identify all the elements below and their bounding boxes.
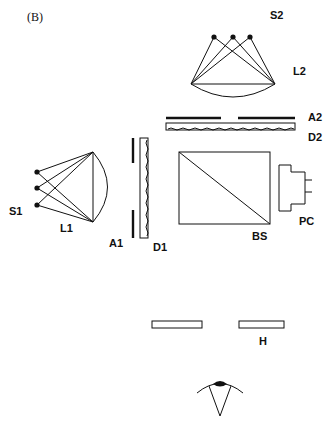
hologram-h — [152, 321, 284, 328]
label-a1: A1 — [109, 237, 123, 249]
label-d1: D1 — [153, 241, 167, 253]
diffuser-d2 — [166, 123, 295, 130]
label-a2: A2 — [308, 111, 322, 123]
label-l1: L1 — [60, 222, 73, 234]
label-bs: BS — [252, 230, 267, 242]
eye-icon — [197, 381, 243, 416]
camera-pc — [279, 165, 312, 211]
source-s1 — [34, 152, 93, 222]
label-h: H — [259, 335, 267, 347]
label-s2: S2 — [270, 9, 283, 21]
source-s2 — [191, 34, 275, 84]
lens-l2 — [191, 84, 275, 97]
diffuser-d1 — [140, 138, 148, 238]
label-d2: D2 — [308, 131, 322, 143]
label-s1: S1 — [9, 205, 22, 217]
beam-splitter — [179, 152, 270, 224]
optical-setup-diagram: (B) S2 L2 A2 D2 S1 — [0, 0, 331, 429]
panel-label: (B) — [27, 10, 43, 24]
label-l2: L2 — [293, 65, 306, 77]
label-pc: PC — [299, 215, 314, 227]
lens-l1 — [93, 152, 108, 222]
